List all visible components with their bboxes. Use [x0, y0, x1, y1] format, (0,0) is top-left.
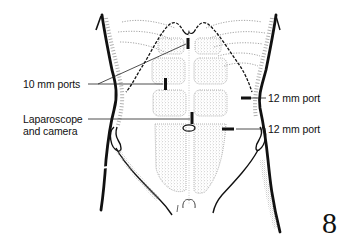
rib-lines: [118, 20, 265, 66]
label-laparoscope: Laparoscope: [23, 113, 83, 125]
port-left-10mm: [164, 78, 167, 90]
label-10mm-ports: 10 mm ports: [23, 78, 80, 90]
label-and-camera: and camera: [23, 125, 77, 137]
figure-number: 8: [322, 208, 337, 238]
label-12mm-port-upper: 12 mm port: [268, 92, 320, 104]
port-right-lower-12mm: [222, 128, 234, 131]
port-umbilical: [191, 112, 194, 124]
port-right-upper-12mm: [241, 97, 251, 100]
label-12mm-port-lower: 12 mm port: [268, 123, 320, 135]
port-upper-midline: [187, 38, 190, 49]
